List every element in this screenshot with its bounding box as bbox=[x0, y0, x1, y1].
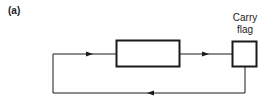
arrow-right-icon bbox=[86, 52, 93, 57]
carry-flag-box bbox=[233, 42, 257, 67]
rotate-through-carry-diagram bbox=[0, 0, 271, 104]
register-box bbox=[117, 41, 180, 67]
arrow-right-icon bbox=[202, 52, 209, 57]
arrow-left-icon bbox=[147, 91, 154, 96]
